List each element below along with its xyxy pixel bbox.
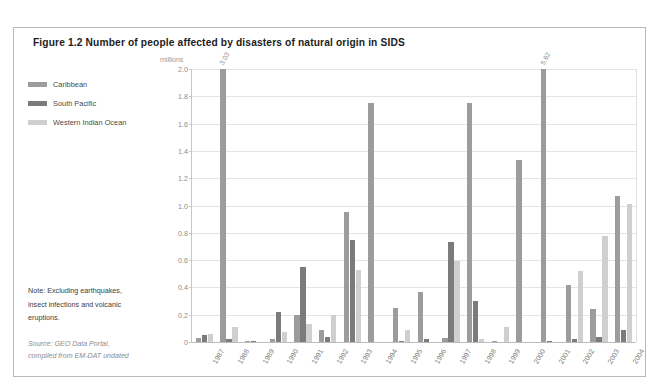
bar-group-2002: 2002 <box>562 69 587 342</box>
x-axis-tick-label: 1994 <box>384 348 399 366</box>
bar-caribbean-2004 <box>615 196 620 342</box>
bar-group-2004: 2004 <box>611 69 636 342</box>
y-axis-tick-label: 0.6 <box>178 256 188 265</box>
y-axis-tick-label: 0 <box>184 338 188 347</box>
gridline <box>192 342 636 343</box>
bar-group-2003: 2003 <box>587 69 612 342</box>
bar-western-indian-ocean-1988 <box>232 327 237 342</box>
legend-swatch-icon-caribbean <box>28 82 47 87</box>
y-axis-tick-label: 1.4 <box>178 146 188 155</box>
bar-south-pacific-1998 <box>473 301 478 342</box>
y-axis-tick-label: 1.2 <box>178 174 188 183</box>
plot-container: millions 00.20.40.60.81.01.21.41.61.82.0… <box>160 56 640 376</box>
bar-caribbean-1997 <box>442 338 447 342</box>
legend-item-south-pacific: South Pacific <box>28 94 148 113</box>
figure-screenshot: Figure 1.2 Number of people affected by … <box>0 0 659 391</box>
legend-swatch-icon-south-pacific <box>28 101 47 106</box>
y-axis-tick-label: 0.4 <box>178 283 188 292</box>
legend-swatch-icon-western-indian-ocean <box>28 120 47 125</box>
bar-south-pacific-2003 <box>596 337 601 342</box>
bar-group-1993: 1993 <box>340 69 365 342</box>
bar-south-pacific-1988 <box>226 339 231 342</box>
x-axis-tick-label: 1987 <box>212 348 227 366</box>
figure-note: Note: Excluding earthquakes,insect infec… <box>28 284 156 325</box>
bar-caribbean-1996 <box>418 292 423 343</box>
bar-caribbean-1998 <box>467 103 472 342</box>
figure-source: Source: GEO Data Portal,compiled from EM… <box>28 339 160 362</box>
note-line: eruptions. <box>28 311 156 325</box>
bar-south-pacific-1995 <box>399 341 404 342</box>
bar-group-1989: 1989 <box>241 69 266 342</box>
bar-caribbean-1988: 3.03 <box>220 69 225 342</box>
y-axis-tick-label: 0.2 <box>178 310 188 319</box>
x-axis-tick-label: 1996 <box>434 348 449 366</box>
bar-group-1997: 1997 <box>439 69 464 342</box>
bar-south-pacific-1992 <box>325 337 330 342</box>
note-line: insect infections and volcanic <box>28 298 156 312</box>
bar-value-label: 3.03 <box>218 51 231 66</box>
x-axis-tick-label: 1988 <box>236 348 251 366</box>
bar-south-pacific-1990 <box>276 312 281 342</box>
bar-group-1990: 1990 <box>266 69 291 342</box>
bar-western-indian-ocean-1997 <box>454 261 459 342</box>
x-axis-tick-label: 1990 <box>286 348 301 366</box>
x-axis-tick-label: 1993 <box>360 348 375 366</box>
bar-caribbean-1995 <box>393 308 398 342</box>
x-axis-tick-label: 2004 <box>631 348 646 366</box>
y-axis-tick-label: 0.8 <box>178 228 188 237</box>
legend-item-label: Western Indian Ocean <box>53 118 126 127</box>
note-line: Note: Excluding earthquakes, <box>28 284 156 298</box>
bar-western-indian-ocean-2004 <box>627 204 632 342</box>
y-axis-tick-label: 1.6 <box>178 119 188 128</box>
y-axis-tick-label: 1.8 <box>178 92 188 101</box>
bar-western-indian-ocean-1990 <box>282 332 287 342</box>
x-axis-tick-label: 1998 <box>483 348 498 366</box>
figure-frame: Figure 1.2 Number of people affected by … <box>13 27 646 377</box>
source-line: Source: GEO Data Portal, <box>28 339 160 351</box>
bar-western-indian-ocean-1987 <box>208 334 213 342</box>
plot-area: 00.20.40.60.81.01.21.41.61.82.019873.031… <box>191 69 637 342</box>
bar-south-pacific-1997 <box>448 242 453 342</box>
x-axis-tick-label: 1995 <box>409 348 424 366</box>
x-axis-tick-label: 1999 <box>508 348 523 366</box>
bar-western-indian-ocean-1998 <box>479 339 484 342</box>
bar-western-indian-ocean-1993 <box>356 270 361 342</box>
bar-group-1994: 1994 <box>365 69 390 342</box>
bar-group-1987: 1987 <box>192 69 217 342</box>
legend-item-label: Caribbean <box>53 80 87 89</box>
bar-caribbean-1991 <box>294 315 299 342</box>
bar-caribbean-2003 <box>590 309 595 342</box>
bar-south-pacific-1991 <box>300 267 305 342</box>
bar-western-indian-ocean-1991 <box>306 324 311 342</box>
bar-group-1999: 1999 <box>488 69 513 342</box>
y-axis-tickmark <box>189 342 192 343</box>
bar-western-indian-ocean-2003 <box>602 236 607 342</box>
bar-caribbean-1993 <box>344 212 349 342</box>
bar-western-indian-ocean-1992 <box>331 315 336 342</box>
bar-western-indian-ocean-2002 <box>578 271 583 342</box>
bar-south-pacific-2001 <box>547 341 552 342</box>
bar-western-indian-ocean-1995 <box>405 330 410 342</box>
bar-value-label: 5.92 <box>539 51 552 66</box>
page-title: Figure 1.2 Number of people affected by … <box>33 37 405 48</box>
bar-western-indian-ocean-1999 <box>504 327 509 342</box>
bar-caribbean-1990 <box>270 339 275 342</box>
x-axis-tick-label: 1992 <box>335 348 350 366</box>
legend-item-caribbean: Caribbean <box>28 75 148 94</box>
bar-caribbean-2000 <box>516 160 521 342</box>
y-axis-tick-label: 2.0 <box>178 65 188 74</box>
bar-group-1996: 1996 <box>414 69 439 342</box>
bar-south-pacific-1996 <box>424 339 429 342</box>
bar-south-pacific-1987 <box>202 335 207 342</box>
x-axis-tick-label: 2002 <box>582 348 597 366</box>
bar-group-1995: 1995 <box>389 69 414 342</box>
bar-caribbean-2002 <box>566 285 571 342</box>
legend-item-label: South Pacific <box>53 99 96 108</box>
x-axis-tick-label: 1997 <box>458 348 473 366</box>
chart-legend: CaribbeanSouth PacificWestern Indian Oce… <box>28 75 148 132</box>
bar-group-1988: 3.031988 <box>217 69 242 342</box>
x-axis-tick-label: 1991 <box>310 348 325 366</box>
bar-caribbean-1992 <box>319 330 324 342</box>
bar-group-2000: 2000 <box>513 69 538 342</box>
x-axis-tick-label: 1989 <box>261 348 276 366</box>
